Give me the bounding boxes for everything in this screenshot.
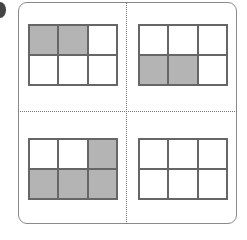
empty-cell-r0-c0 (139, 25, 168, 55)
grid-bottom-left (28, 138, 118, 200)
empty-cell-r1-c2 (198, 55, 227, 85)
shaded-cell-r0-c2 (88, 139, 117, 169)
shaded-cell-r1-c1 (58, 169, 87, 199)
vertical-dotted-divider (126, 2, 127, 224)
empty-cell-r0-c1 (168, 139, 197, 169)
empty-cell-r1-c2 (198, 169, 227, 199)
empty-cell-r1-c0 (139, 169, 168, 199)
grid-top-left (28, 24, 118, 86)
empty-cell-r0-c1 (168, 25, 197, 55)
grid-bottom-right (138, 138, 228, 200)
empty-cell-r0-c0 (139, 139, 168, 169)
grid-top-right (138, 24, 228, 86)
empty-cell-r0-c2 (198, 25, 227, 55)
shaded-cell-r0-c0 (29, 25, 58, 55)
empty-cell-r0-c0 (29, 139, 58, 169)
empty-cell-r1-c0 (29, 55, 58, 85)
empty-cell-r1-c1 (168, 169, 197, 199)
empty-cell-r0-c2 (88, 25, 117, 55)
empty-cell-r0-c2 (198, 139, 227, 169)
empty-cell-r1-c2 (88, 55, 117, 85)
horizontal-dotted-divider (18, 111, 237, 112)
empty-cell-r0-c1 (58, 139, 87, 169)
shaded-cell-r1-c0 (139, 55, 168, 85)
question-bullet-marker (0, 2, 6, 18)
shaded-cell-r1-c2 (88, 169, 117, 199)
empty-cell-r1-c1 (58, 55, 87, 85)
shaded-cell-r1-c1 (168, 55, 197, 85)
shaded-cell-r1-c0 (29, 169, 58, 199)
shaded-cell-r0-c1 (58, 25, 87, 55)
